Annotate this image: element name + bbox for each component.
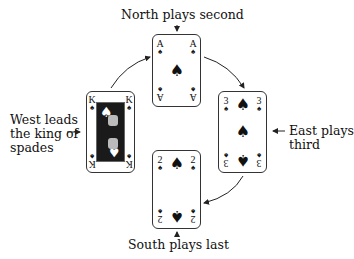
card-east-three-of-spades: 3♠ 3♠ ♠ ♠ ♠ 3♠ 3♠ [218,91,267,173]
spade-icon: ♠ [235,152,251,168]
corner-index-bottom-left: 2♠ [156,207,164,224]
card-north-ace-of-spades: A♠ A♠ ♠ A♠ A♠ [152,34,201,107]
spade-icon: ♠ [235,124,251,140]
card-west-king-of-spades: ♠ ♠ K♠ K♠ K♠ K♠ [86,91,135,173]
corner-index-top-right: 2♠ [189,155,197,172]
corner-index-bottom-right: 3♠ [255,151,263,168]
spade-icon: ♠ [169,63,185,79]
corner-index-top-right: A♠ [189,39,197,56]
king-face-bottom [108,138,118,149]
corner-index-bottom-left: K♠ [88,152,96,169]
corner-index-bottom-right: K♠ [125,152,133,169]
spade-icon: ♠ [169,208,185,224]
corner-index-top-left: A♠ [156,39,164,56]
arrow-west-to-north [111,57,150,88]
spade-icon: ♠ [169,156,185,172]
corner-index-top-left: 2♠ [156,155,164,172]
card-south-two-of-spades: 2♠ 2♠ ♠ ♠ 2♠ 2♠ [152,150,201,229]
corner-index-bottom-right: 2♠ [189,207,197,224]
corner-index-top-left: K♠ [88,95,96,112]
corner-index-bottom-left: 3♠ [222,151,230,168]
corner-index-top-right: 3♠ [255,96,263,113]
king-face-top [108,115,118,126]
spade-icon: ♠ [235,97,251,113]
corner-index-top-left: 3♠ [222,96,230,113]
arrow-east-to-south [204,176,243,203]
corner-index-top-right: K♠ [125,95,133,112]
king-portrait: ♠ ♠ [96,102,125,162]
corner-index-bottom-right: A♠ [189,85,197,102]
arrow-north-to-east [204,57,244,88]
corner-index-bottom-left: A♠ [156,85,164,102]
